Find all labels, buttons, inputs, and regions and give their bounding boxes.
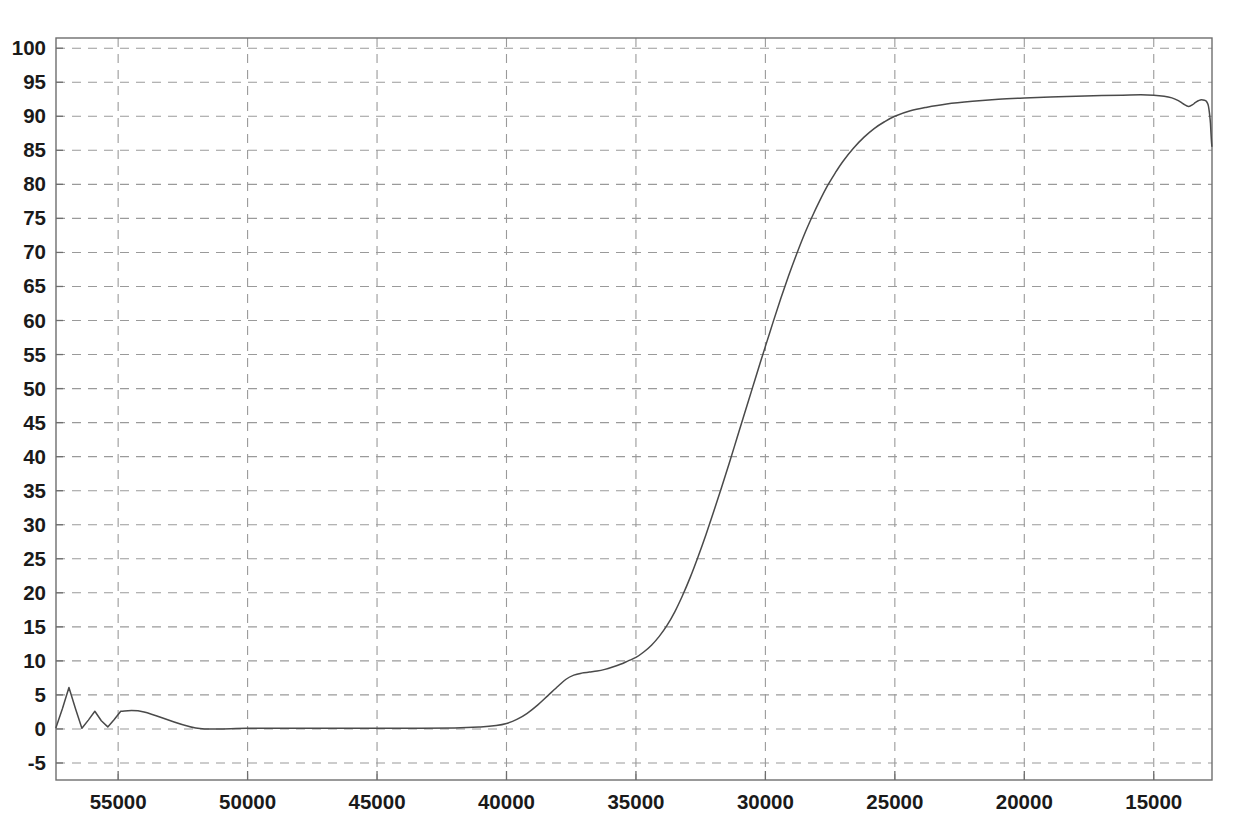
y-tick-label-30: 30 bbox=[23, 513, 46, 536]
x-tick-label-30000: 30000 bbox=[737, 790, 794, 813]
y-tick-label-70: 70 bbox=[23, 240, 46, 263]
y-tick-label-20: 20 bbox=[23, 581, 46, 604]
gridlines-vertical bbox=[118, 38, 1154, 780]
y-tick-label-40: 40 bbox=[23, 445, 46, 468]
chart-container: -505101520253035404550556065707580859095… bbox=[0, 0, 1238, 831]
x-tick-label-50000: 50000 bbox=[219, 790, 276, 813]
axes-frame bbox=[56, 38, 1212, 780]
x-tick-label-15000: 15000 bbox=[1125, 790, 1182, 813]
x-tick-label-45000: 45000 bbox=[349, 790, 406, 813]
x-axis-tick-labels: 5500050000450004000035000300002500020000… bbox=[90, 790, 1183, 813]
y-tick-label-25: 25 bbox=[23, 547, 46, 570]
data-series-group bbox=[56, 95, 1212, 729]
y-tick-label-35: 35 bbox=[23, 479, 46, 502]
y-tick-label-60: 60 bbox=[23, 309, 46, 332]
y-tick-label-15: 15 bbox=[23, 615, 46, 638]
y-tick-label-95: 95 bbox=[23, 70, 46, 93]
x-tick-label-55000: 55000 bbox=[90, 790, 147, 813]
y-tick-label-5: 5 bbox=[35, 683, 46, 706]
plot-frame bbox=[56, 38, 1212, 780]
y-tick-label-50: 50 bbox=[23, 377, 46, 400]
series-line-transmittance bbox=[56, 95, 1212, 729]
y-tick-label-0: 0 bbox=[35, 717, 46, 740]
x-tick-label-35000: 35000 bbox=[607, 790, 664, 813]
y-tick-label-75: 75 bbox=[23, 206, 46, 229]
y-tick-label-85: 85 bbox=[23, 138, 46, 161]
x-tick-label-25000: 25000 bbox=[866, 790, 923, 813]
y-tick-label-65: 65 bbox=[23, 274, 46, 297]
y-tick-label-90: 90 bbox=[23, 104, 46, 127]
y-tick-label-80: 80 bbox=[23, 172, 46, 195]
y-tick-label-55: 55 bbox=[23, 343, 46, 366]
x-tick-label-20000: 20000 bbox=[996, 790, 1053, 813]
y-axis-tick-labels: -505101520253035404550556065707580859095… bbox=[12, 36, 46, 774]
y-tick-label-10: 10 bbox=[23, 649, 46, 672]
y-tick-label--5: -5 bbox=[28, 751, 46, 774]
x-tick-label-40000: 40000 bbox=[478, 790, 535, 813]
y-tick-label-45: 45 bbox=[23, 411, 46, 434]
axis-ticks bbox=[56, 48, 1154, 780]
y-tick-label-100: 100 bbox=[12, 36, 46, 59]
transmittance-spectrum-plot: -505101520253035404550556065707580859095… bbox=[0, 0, 1238, 831]
gridlines-horizontal bbox=[56, 48, 1212, 763]
